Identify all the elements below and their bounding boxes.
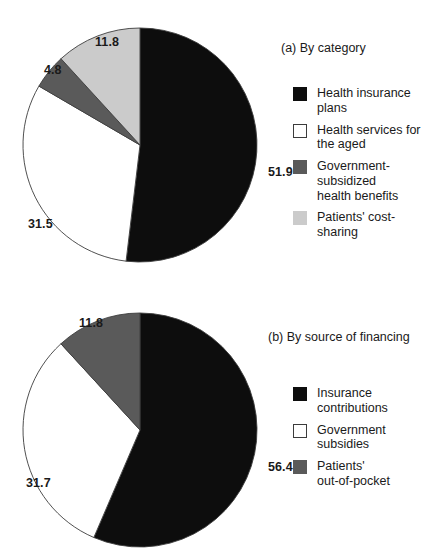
legend-swatch-icon — [293, 211, 307, 225]
pie-value-label: 11.8 — [79, 316, 103, 330]
legend-item-label: Patients' out-of-pocket — [317, 459, 390, 489]
pie-value-label: 56.4 — [268, 460, 293, 474]
figure-caption-b: (b) By source of financing — [268, 330, 410, 344]
legend-item[interactable]: Health insurance plans — [293, 86, 435, 116]
legend-item[interactable]: Government subsidies — [293, 423, 435, 453]
legend-swatch-icon — [293, 160, 307, 174]
legend-item-label: Patients' cost-sharing — [317, 210, 435, 240]
legend-item[interactable]: Patients' cost-sharing — [293, 210, 435, 240]
legend-by-category: Health insurance plansHealth services fo… — [293, 86, 435, 247]
pie-svg-by-source-of-financing — [22, 312, 262, 552]
pie-slice — [126, 28, 257, 262]
pie-chart-by-source-of-financing: 56.431.711.8 — [22, 312, 262, 552]
legend-item[interactable]: Government- subsidized health benefits — [293, 159, 435, 203]
figure-by-source-of-financing: 56.431.711.8 (b) By source of financing … — [0, 290, 435, 558]
legend-item[interactable]: Insurance contributions — [293, 386, 435, 416]
legend-item-label: Government- subsidized health benefits — [317, 159, 398, 203]
legend-swatch-icon — [293, 460, 307, 474]
legend-swatch-icon — [293, 424, 307, 438]
legend-item-label: Health insurance plans — [317, 86, 411, 116]
pie-value-label: 31.7 — [26, 476, 51, 490]
pie-value-label: 11.8 — [95, 35, 119, 49]
legend-swatch-icon — [293, 124, 307, 138]
legend-item[interactable]: Patients' out-of-pocket — [293, 459, 435, 489]
figure-caption-a: (a) By category — [281, 41, 366, 55]
pie-value-label: 4.8 — [44, 63, 62, 77]
pie-value-label: 31.5 — [28, 217, 53, 231]
legend-item-label: Government subsidies — [317, 423, 435, 453]
legend-item[interactable]: Health services for the aged — [293, 123, 435, 153]
legend-swatch-icon — [293, 387, 307, 401]
legend-by-source-of-financing: Insurance contributionsGovernment subsid… — [293, 386, 435, 496]
pie-value-label: 51.9 — [268, 165, 293, 179]
pie-chart-by-category: 51.931.54.811.8 — [22, 27, 262, 267]
legend-item-label: Insurance contributions — [317, 386, 388, 416]
legend-swatch-icon — [293, 87, 307, 101]
legend-item-label: Health services for the aged — [317, 123, 421, 153]
figure-by-category: 51.931.54.811.8 (a) By category Health i… — [0, 0, 435, 290]
